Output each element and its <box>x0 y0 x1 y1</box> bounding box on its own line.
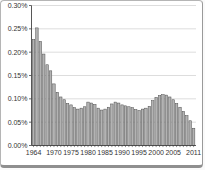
bar-1964 <box>32 40 34 146</box>
bar-2008 <box>182 111 184 145</box>
bar-1971 <box>56 92 58 145</box>
y-tick-label: 0.15% <box>8 72 28 79</box>
bar-2011 <box>192 128 194 145</box>
bar-1979 <box>83 107 85 146</box>
x-tick-label: 1970 <box>46 149 62 156</box>
x-tick-label: 1990 <box>114 149 130 156</box>
bar-1974 <box>66 104 68 146</box>
bar-1991 <box>124 106 126 146</box>
bar-1970 <box>53 84 55 146</box>
bar-1993 <box>131 108 133 146</box>
bar-1992 <box>128 107 130 146</box>
bar-2001 <box>158 96 160 146</box>
x-tick-label: 2005 <box>165 149 181 156</box>
bar-2004 <box>169 97 171 146</box>
y-tick-label: 0.30% <box>8 2 28 9</box>
bar-1975 <box>70 105 72 146</box>
bar-1969 <box>49 71 51 146</box>
x-tick-label: 1995 <box>131 149 147 156</box>
bar-1981 <box>90 103 92 145</box>
bar-1982 <box>94 104 96 145</box>
bar-2009 <box>186 116 188 146</box>
bar-1966 <box>39 41 41 145</box>
bar-1988 <box>114 102 116 145</box>
bar-1972 <box>60 97 62 146</box>
bar-2006 <box>175 104 177 146</box>
bar-2007 <box>179 107 181 145</box>
population-rate-bar-chart: 0.00%0.05%0.10%0.15%0.20%0.25%0.30%19641… <box>1 1 202 165</box>
bar-1984 <box>100 110 102 145</box>
bar-1983 <box>97 108 99 145</box>
bar-1997 <box>145 108 147 145</box>
bar-1996 <box>141 109 143 145</box>
bar-1989 <box>117 103 119 145</box>
bar-1995 <box>138 111 140 146</box>
x-tick-label: 1975 <box>63 149 79 156</box>
bar-1985 <box>104 109 106 145</box>
y-tick-label: 0.25% <box>8 25 28 32</box>
y-tick-label: 0.00% <box>8 142 28 149</box>
bar-2003 <box>165 95 167 145</box>
bar-1968 <box>46 65 48 146</box>
bar-1998 <box>148 106 150 145</box>
bar-1990 <box>121 105 123 146</box>
bar-1999 <box>152 101 154 146</box>
bar-1973 <box>63 100 65 146</box>
x-tick-label: 1980 <box>80 149 96 156</box>
x-tick-label: 2011 <box>186 149 201 156</box>
bar-2010 <box>189 121 191 146</box>
bar-1994 <box>134 110 136 146</box>
bar-2000 <box>155 97 157 145</box>
y-tick-label: 0.20% <box>8 49 28 56</box>
bar-1980 <box>87 102 89 145</box>
bar-1977 <box>77 109 79 145</box>
bar-2005 <box>172 100 174 146</box>
x-tick-label: 2000 <box>148 149 164 156</box>
y-tick-label: 0.05% <box>8 119 28 126</box>
chart-card: 0.00%0.05%0.10%0.15%0.20%0.25%0.30%19641… <box>0 0 203 168</box>
bar-1986 <box>107 107 109 145</box>
bar-2002 <box>162 95 164 146</box>
bar-1965 <box>36 28 38 146</box>
x-tick-label: 1964 <box>26 149 42 156</box>
y-tick-label: 0.10% <box>8 95 28 102</box>
x-tick-label: 1985 <box>97 149 113 156</box>
bar-1967 <box>43 54 45 145</box>
bar-1978 <box>80 108 82 145</box>
bar-1976 <box>73 108 75 146</box>
bar-1987 <box>111 104 113 146</box>
